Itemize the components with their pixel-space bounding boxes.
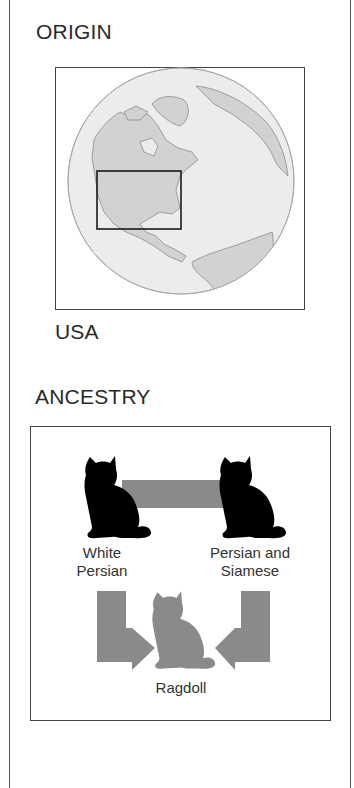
offspring-cat-ragdoll	[152, 591, 215, 669]
arrow-right-icon	[215, 591, 270, 670]
marriage-bar	[122, 480, 226, 508]
label-line: Persian	[52, 562, 152, 580]
label-line: Persian and	[190, 544, 310, 562]
label-line: White	[52, 544, 152, 562]
label-line: Siamese	[190, 562, 310, 580]
arrow-left-icon	[97, 591, 155, 670]
parent-cat-persian-siamese	[220, 456, 287, 538]
offspring-label-ragdoll: Ragdoll	[131, 679, 231, 697]
parent-label-white-persian: White Persian	[52, 544, 152, 580]
parent-label-persian-siamese: Persian and Siamese	[190, 544, 310, 580]
